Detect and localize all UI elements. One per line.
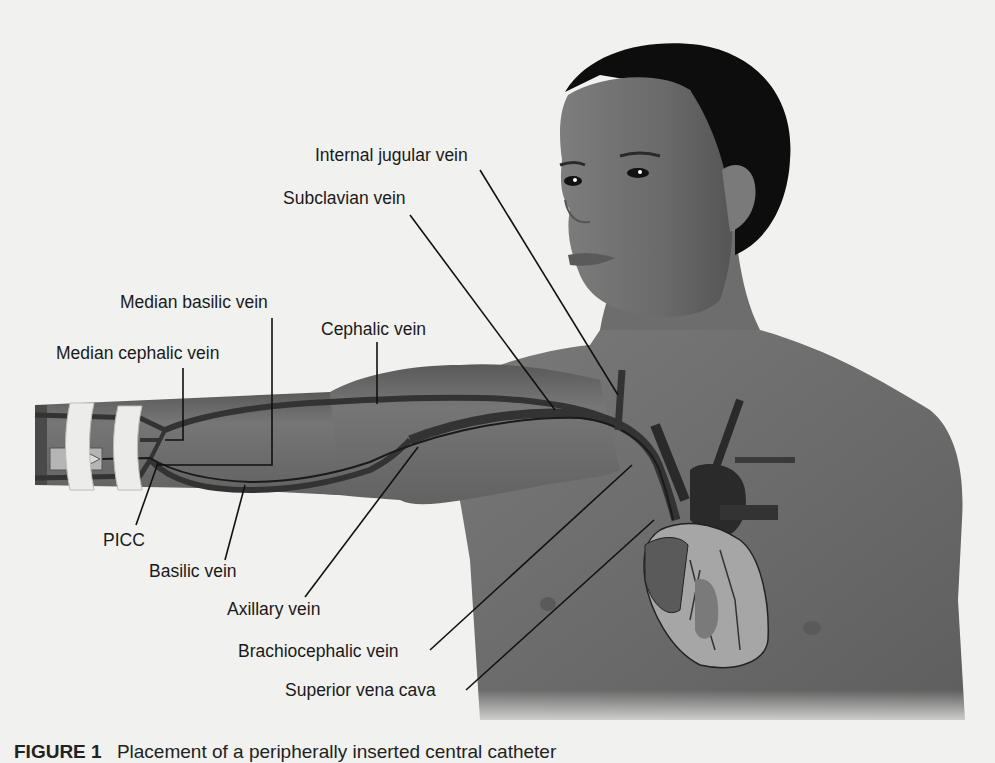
tape-2 (114, 406, 143, 490)
label-cephalic-vein: Cephalic vein (321, 321, 426, 339)
label-median-cephalic-vein: Median cephalic vein (56, 345, 219, 363)
figure-caption: FIGURE 1 Placement of a peripherally ins… (14, 741, 556, 763)
tape-1 (66, 403, 95, 490)
label-picc: PICC (103, 532, 145, 550)
label-brachiocephalic-vein: Brachiocephalic vein (238, 643, 399, 661)
right-eye (627, 168, 649, 178)
label-median-basilic-vein: Median basilic vein (120, 294, 268, 312)
label-superior-vena-cava: Superior vena cava (285, 682, 436, 700)
label-internal-jugular-vein: Internal jugular vein (315, 147, 468, 165)
internal-jugular-vein (618, 370, 622, 430)
label-axillary-vein: Axillary vein (227, 601, 320, 619)
label-basilic-vein: Basilic vein (149, 563, 237, 581)
label-subclavian-vein: Subclavian vein (283, 190, 406, 208)
caption-text: Placement of a peripherally inserted cen… (117, 741, 556, 762)
pulmonary (720, 505, 778, 520)
caption-number: FIGURE 1 (14, 741, 102, 762)
left-eye (564, 176, 582, 186)
